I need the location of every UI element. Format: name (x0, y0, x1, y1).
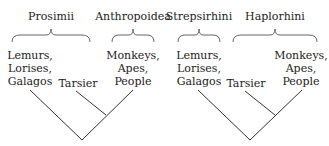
taxon-people: People (114, 75, 151, 88)
taxon-apes: Apes, (117, 62, 149, 75)
taxon-people: People (282, 75, 319, 88)
right-cladogram: Strepsirhini Haplorhini Lemurs, Lorises,… (166, 10, 328, 140)
group-label-strepsirhini: Strepsirhini (166, 10, 233, 23)
brace-prosimii (12, 29, 90, 42)
taxon-apes: Apes, (285, 62, 317, 75)
brace-strepsirhini (178, 29, 220, 42)
brace-haplorhini (233, 29, 317, 42)
branch-strepsirhine (198, 90, 250, 140)
taxon-lorises: Lorises, (177, 62, 221, 75)
branch-haplorhine-stem (250, 90, 302, 140)
taxon-tarsier: Tarsier (58, 77, 98, 90)
left-cladogram: Prosimii Anthropoidea Lemurs, Lorises, G… (7, 10, 171, 140)
taxon-lemurs: Lemurs, (7, 49, 53, 62)
branch-tarsier (76, 91, 106, 115)
taxon-monkeys: Monkeys, (274, 49, 328, 62)
branch-strepsirhine (30, 90, 82, 140)
group-label-haplorhini: Haplorhini (245, 10, 305, 23)
taxon-tarsier: Tarsier (226, 77, 266, 90)
branch-tarsier (245, 91, 275, 115)
taxon-galagos: Galagos (177, 75, 222, 88)
primate-classification-diagram: Prosimii Anthropoidea Lemurs, Lorises, G… (0, 0, 329, 146)
taxon-lorises: Lorises, (8, 62, 52, 75)
taxon-monkeys: Monkeys, (106, 49, 160, 62)
brace-anthropoidea (112, 29, 154, 42)
group-label-anthropoidea: Anthropoidea (94, 10, 171, 23)
taxon-galagos: Galagos (8, 75, 53, 88)
taxon-lemurs: Lemurs, (176, 49, 222, 62)
group-label-prosimii: Prosimii (28, 10, 74, 23)
branch-anthropoid-stem (82, 90, 133, 140)
